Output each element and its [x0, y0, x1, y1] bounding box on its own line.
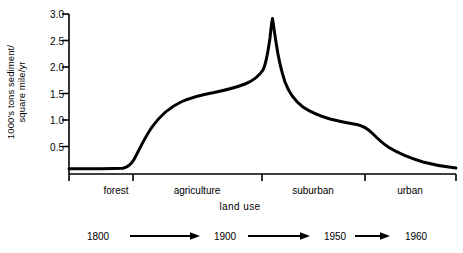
- timeline-year-1960: 1960: [396, 231, 436, 242]
- x-category-label-forest: forest: [81, 185, 151, 196]
- timeline-arrow-2-head: [300, 232, 310, 240]
- y-axis-label-line-1: 1000's tons sediment/: [5, 45, 16, 139]
- timeline-year-1950: 1950: [315, 231, 355, 242]
- y-tick-label-25: 2.5: [34, 36, 64, 47]
- x-category-label-agriculture: agriculture: [162, 185, 232, 196]
- y-tick-label-2: 2.0: [34, 62, 64, 73]
- y-tick-label-05: 0.5: [34, 142, 64, 153]
- x-axis-title: land use: [180, 201, 300, 212]
- timeline-arrow-1-head: [190, 232, 200, 240]
- y-axis-label-line-2: square mile/yr: [16, 61, 27, 122]
- y-tick-label-1: 1.0: [34, 115, 64, 126]
- chart-figure: 1000's tons sediment/ square mile/yr 3.0…: [0, 0, 463, 253]
- x-category-label-urban: urban: [375, 185, 445, 196]
- y-tick-label-15: 1.5: [34, 89, 64, 100]
- timeline-year-1900: 1900: [205, 231, 245, 242]
- x-category-label-suburban: suburban: [278, 185, 348, 196]
- sediment-yield-curve: [69, 19, 456, 169]
- timeline-year-1800: 1800: [78, 231, 118, 242]
- timeline-arrow-3-head: [380, 232, 390, 240]
- y-axis-label: 1000's tons sediment/ square mile/yr: [0, 27, 32, 157]
- y-tick-label-3: 3.0: [34, 9, 64, 20]
- chart-canvas: [0, 0, 463, 253]
